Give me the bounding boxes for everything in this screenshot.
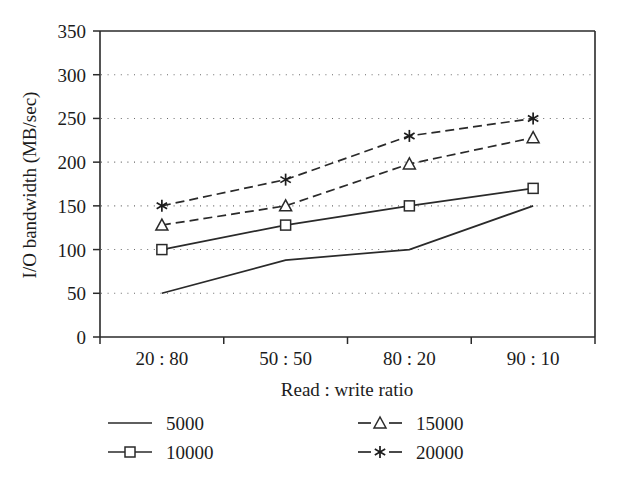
legend-marker bbox=[374, 417, 386, 428]
x-category-label: 80 : 20 bbox=[383, 348, 436, 369]
series-marker bbox=[404, 201, 414, 211]
series-marker bbox=[527, 132, 539, 143]
data-series bbox=[157, 183, 538, 254]
series-marker bbox=[404, 130, 414, 142]
y-tick-label: 300 bbox=[58, 65, 87, 86]
x-category-label: 20 : 80 bbox=[135, 348, 188, 369]
series-marker bbox=[281, 220, 291, 230]
y-tick-label: 50 bbox=[67, 283, 86, 304]
y-tick-label: 150 bbox=[58, 196, 87, 217]
series-marker bbox=[157, 245, 167, 255]
y-tick-label: 350 bbox=[58, 21, 87, 42]
x-category-label: 90 : 10 bbox=[507, 348, 560, 369]
x-axis-title: Read : write ratio bbox=[281, 379, 413, 400]
series-line bbox=[162, 138, 533, 225]
legend-item: 15000 bbox=[358, 413, 464, 434]
y-axis-ticks: 050100150200250300350 bbox=[58, 21, 101, 348]
series-marker bbox=[280, 174, 290, 186]
series-layer bbox=[156, 112, 539, 293]
x-category-label: 50 : 50 bbox=[259, 348, 312, 369]
legend-marker bbox=[375, 446, 385, 458]
legend-item: 5000 bbox=[108, 413, 204, 434]
chart-figure: I/O bandwidth (MB/sec) 05010015020025030… bbox=[0, 0, 642, 488]
legend-marker bbox=[125, 447, 135, 457]
legend-label: 20000 bbox=[416, 442, 464, 463]
legend-label: 10000 bbox=[166, 442, 214, 463]
legend-item: 10000 bbox=[108, 442, 214, 463]
y-tick-label: 0 bbox=[77, 327, 87, 348]
series-marker bbox=[280, 200, 292, 211]
y-axis-title: I/O bandwidth (MB/sec) bbox=[19, 92, 41, 279]
y-tick-label: 200 bbox=[58, 152, 87, 173]
series-line bbox=[162, 188, 533, 249]
legend-label: 15000 bbox=[416, 413, 464, 434]
y-tick-label: 250 bbox=[58, 108, 87, 129]
y-tick-label: 100 bbox=[58, 240, 87, 261]
legend-item: 20000 bbox=[358, 442, 464, 463]
series-marker bbox=[528, 183, 538, 193]
legend-label: 5000 bbox=[166, 413, 204, 434]
line-chart: I/O bandwidth (MB/sec) 05010015020025030… bbox=[0, 0, 642, 488]
chart-legend: 5000100001500020000 bbox=[108, 413, 464, 463]
x-axis-ticks: 20 : 8050 : 5080 : 2090 : 10 bbox=[100, 337, 595, 369]
